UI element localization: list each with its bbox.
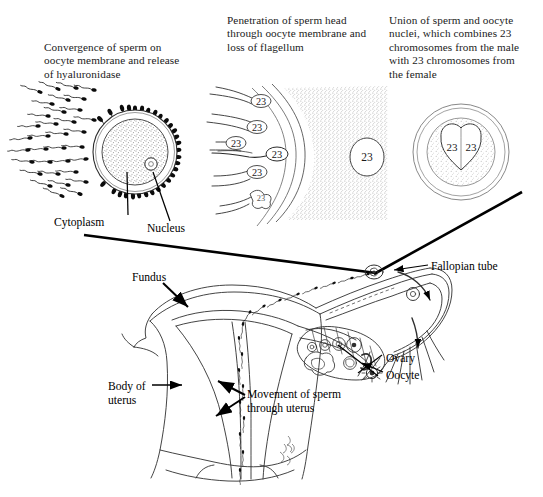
sperm-head-penetrating-label: 23 <box>272 149 282 160</box>
label-oocyte: Oocyte <box>386 369 419 383</box>
sperm-head-5-label: 23 <box>257 194 265 203</box>
oocyte-cytoplasm <box>102 119 168 185</box>
label-body-of-uterus: Body of uterus <box>108 380 168 407</box>
sperm-head-4-label: 23 <box>252 167 262 178</box>
paternal-chromosome-count: 23 <box>466 141 478 153</box>
label-nucleus: Nucleus <box>147 222 185 236</box>
oocyte-nucleus-chromosome-count: 23 <box>361 151 373 163</box>
fertilization-figure: 23 23 23 23 <box>0 0 543 497</box>
caption-union: Union of sperm and oocyte nuclei, which … <box>389 14 539 81</box>
sperm-head-2-label: 23 <box>252 122 262 133</box>
oocyte-nucleus <box>145 158 157 170</box>
label-movement-of-sperm: Movement of sperm through uterus <box>247 388 372 415</box>
label-fundus: Fundus <box>132 271 166 285</box>
label-ovary: Ovary <box>386 352 415 366</box>
sperm-head-1-label: 23 <box>256 96 266 107</box>
caption-convergence: Convergence of sperm on oocyte membrane … <box>44 41 219 81</box>
label-fallopian-tube: Fallopian tube <box>431 260 498 274</box>
maternal-chromosome-count: 23 <box>447 141 459 153</box>
label-cytoplasm: Cytoplasm <box>54 216 104 230</box>
panel-right-union: 23 23 <box>413 104 509 200</box>
sperm-head-3-label: 23 <box>231 138 241 149</box>
caption-penetration: Penetration of sperm head through oocyte… <box>227 14 382 54</box>
